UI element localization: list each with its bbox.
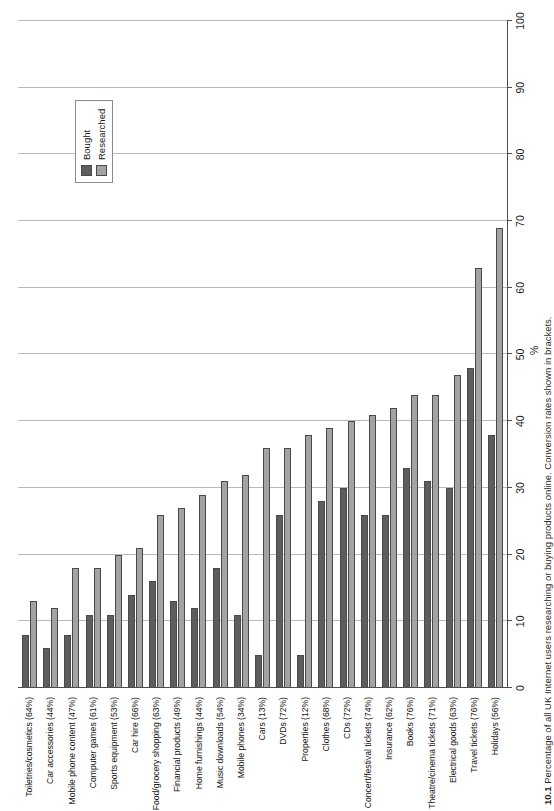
value-tick-label-60: 60 (514, 282, 526, 294)
bar-group (188, 21, 209, 688)
bar-researched (475, 268, 482, 688)
bar-researched (115, 555, 122, 688)
category-label: Mobile phone content (47%) (61, 690, 82, 811)
value-tick-90 (507, 87, 512, 88)
bar-group (146, 21, 167, 688)
value-tick-10 (507, 620, 512, 621)
category-label: Food/grocery shopping (63%) (146, 690, 167, 811)
bar-group (210, 21, 231, 688)
bar-bought (213, 568, 220, 688)
value-tick-label-0: 0 (514, 685, 526, 691)
bar-group (231, 21, 252, 688)
bar-researched (432, 395, 439, 688)
value-tick-label-90: 90 (514, 82, 526, 94)
bar-researched (30, 601, 37, 688)
category-label: Clothes (68%) (315, 690, 336, 811)
category-label: Cars (13%) (252, 690, 273, 811)
bar-group (125, 21, 146, 688)
category-label: Books (76%) (400, 690, 421, 811)
category-label: CDs (72%) (337, 690, 358, 811)
bar-researched (51, 608, 58, 688)
category-label: Computer games (61%) (83, 690, 104, 811)
chart-legend: BoughtResearched (75, 100, 113, 183)
bar-group (315, 21, 336, 688)
bar-bought (403, 468, 410, 688)
legend-swatch-researched (96, 165, 107, 176)
category-label: Concert/festival tickets (74%) (358, 690, 379, 811)
bar-bought (43, 648, 50, 688)
bar-researched (157, 515, 164, 688)
bar-bought (318, 501, 325, 688)
value-tick-50 (507, 354, 512, 355)
category-label: Toiletries/cosmetics (64%) (19, 690, 40, 811)
bar-bought (64, 635, 71, 688)
bar-bought (382, 515, 389, 688)
bar-group (19, 21, 40, 688)
category-label: DVDs (72%) (273, 690, 294, 811)
bar-group (167, 21, 188, 688)
category-label: Theatre/cinema tickets (71%) (421, 690, 442, 811)
value-tick-30 (507, 487, 512, 488)
bar-group (358, 21, 379, 688)
bar-bought (488, 435, 495, 688)
bar-researched (411, 395, 418, 688)
bar-bought (297, 655, 304, 688)
value-tick-label-40: 40 (514, 415, 526, 427)
bar-bought (149, 581, 156, 688)
bar-bought (234, 615, 241, 688)
category-label: Insurance (62%) (379, 690, 400, 811)
value-tick-label-30: 30 (514, 482, 526, 494)
bar-group (485, 21, 506, 688)
bar-bought (424, 481, 431, 688)
figure-number: 10.1 (543, 787, 553, 806)
value-tick-60 (507, 287, 512, 288)
bar-bought (446, 488, 453, 688)
bar-bought (467, 368, 474, 688)
category-label: Sports equipment (53%) (104, 690, 125, 811)
value-tick-20 (507, 554, 512, 555)
bar-bought (107, 615, 114, 688)
bar-researched (305, 435, 312, 688)
category-label: Car hire (66%) (125, 690, 146, 811)
bar-bought (340, 488, 347, 688)
category-label: Music downloads (54%) (210, 690, 231, 811)
bar-researched (326, 428, 333, 688)
bar-researched (454, 375, 461, 688)
figure-caption-text: Percentage of all UK Internet users rese… (543, 317, 553, 784)
value-tick-label-80: 80 (514, 149, 526, 161)
category-label: Financial products (49%) (167, 690, 188, 811)
bar-bought (276, 515, 283, 688)
legend-label: Bought (81, 130, 92, 160)
value-axis-title: % (528, 346, 540, 355)
bar-researched (136, 548, 143, 688)
legend-swatch-bought (81, 165, 92, 176)
value-tick-0 (507, 687, 512, 688)
bar-researched (178, 508, 185, 688)
value-tick-label-20: 20 (514, 549, 526, 561)
category-label: Holidays (56%) (485, 690, 506, 811)
bar-group (421, 21, 442, 688)
bar-group (337, 21, 358, 688)
bar-researched (390, 408, 397, 688)
bar-researched (199, 495, 206, 688)
bar-group (252, 21, 273, 688)
figure-caption: 10.1 Percentage of all UK Internet users… (543, 5, 554, 805)
category-label: Car accessories (44%) (40, 690, 61, 811)
bar-bought (361, 515, 368, 688)
bar-bought (255, 655, 262, 688)
category-label: Travel tickets (76%) (464, 690, 485, 811)
category-label: Home furnishings (44%) (188, 690, 209, 811)
bar-researched (263, 448, 270, 688)
bar-group (400, 21, 421, 688)
value-tick-label-100: 100 (514, 12, 526, 30)
bar-bought (22, 635, 29, 688)
category-label: Mobile phones (34%) (231, 690, 252, 811)
bar-group (294, 21, 315, 688)
bar-researched (242, 475, 249, 688)
bar-bought (170, 601, 177, 688)
legend-item-researched: Researched (96, 109, 107, 176)
bar-group (464, 21, 485, 688)
legend-item-bought: Bought (81, 109, 92, 176)
